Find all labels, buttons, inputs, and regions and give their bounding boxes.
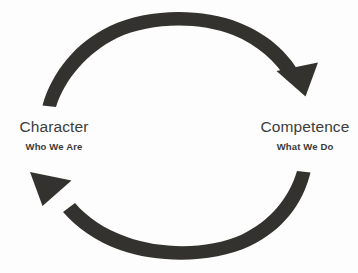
node-character-title: Character: [4, 119, 104, 135]
arrow-bottom-head: [30, 172, 72, 206]
arrow-bottom-shaft: [63, 171, 311, 260]
diagram-canvas: Character Who We Are Competence What We …: [0, 0, 358, 273]
node-character: Character Who We Are: [4, 119, 104, 151]
node-competence-subtitle: What We Do: [254, 142, 356, 152]
node-character-subtitle: Who We Are: [4, 142, 104, 152]
node-competence-title: Competence: [254, 119, 356, 135]
arrow-competence-to-character: [30, 171, 311, 260]
arrow-character-to-competence: [43, 12, 319, 107]
arrow-top-shaft: [43, 12, 300, 107]
node-competence: Competence What We Do: [254, 119, 356, 151]
